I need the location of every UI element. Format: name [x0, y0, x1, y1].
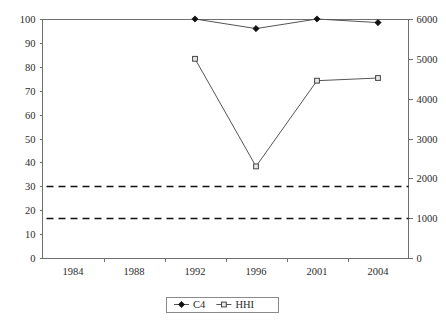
series-line-hhi: [195, 59, 378, 167]
dual-axis-line-chart: 0102030405060708090100 01000200030004000…: [0, 0, 446, 321]
left-axis-labels: 0102030405060708090100: [20, 14, 36, 264]
data-point-hhi: [376, 76, 381, 81]
data-point-hhi: [254, 164, 259, 169]
x-tick-label: 1996: [246, 266, 267, 277]
x-axis-labels: 198419881992199620012004: [63, 266, 390, 277]
left-tick-label: 100: [20, 14, 36, 25]
right-tick-label: 2000: [417, 173, 438, 184]
data-point-c4: [375, 20, 381, 26]
series-layer: [192, 16, 381, 169]
x-tick-label: 1984: [63, 266, 85, 277]
left-tick-label: 20: [25, 205, 36, 216]
left-tick-label: 90: [25, 38, 36, 49]
legend-marker-hhi: [222, 302, 227, 307]
left-tick-label: 50: [25, 134, 36, 145]
x-tick-label: 1988: [124, 266, 145, 277]
right-tick-label: 1000: [417, 213, 438, 224]
data-point-c4: [314, 16, 320, 22]
x-tick-label: 2001: [307, 266, 328, 277]
legend-label-hhi: HHI: [235, 299, 254, 310]
chart-container: 0102030405060708090100 01000200030004000…: [0, 0, 446, 321]
left-tick-label: 40: [25, 157, 36, 168]
x-tick-label: 1992: [185, 266, 206, 277]
legend-label-c4: C4: [193, 299, 206, 310]
right-tick-label: 4000: [417, 94, 438, 105]
right-tick-label: 5000: [417, 54, 438, 65]
left-tick-label: 70: [25, 86, 36, 97]
series-line-c4: [195, 19, 378, 29]
data-point-hhi: [315, 78, 320, 83]
x-tick-label: 2004: [368, 266, 390, 277]
left-tick-label: 80: [25, 62, 36, 73]
right-tick-label: 0: [417, 253, 422, 264]
data-point-c4: [192, 16, 198, 22]
left-tick-label: 60: [25, 110, 36, 121]
left-tick-label: 0: [30, 253, 35, 264]
right-tick-label: 6000: [417, 14, 438, 25]
left-tick-label: 30: [25, 181, 36, 192]
right-axis-ticks: [409, 20, 413, 259]
data-point-hhi: [193, 56, 198, 61]
right-tick-label: 3000: [417, 134, 438, 145]
data-point-c4: [253, 26, 259, 32]
chart-legend: C4HHI: [167, 298, 279, 313]
reference-lines: [47, 187, 409, 219]
plot-frame: [43, 19, 409, 259]
left-tick-label: 10: [25, 229, 36, 240]
right-axis-labels: 0100020003000400050006000: [417, 14, 438, 264]
